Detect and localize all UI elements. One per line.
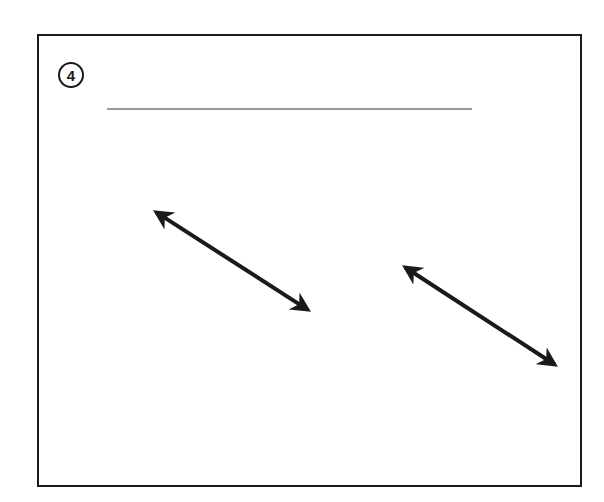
double-arrow-left-icon: [156, 212, 307, 309]
arrows-layer: [0, 0, 604, 502]
double-arrow-right-icon: [405, 267, 554, 364]
